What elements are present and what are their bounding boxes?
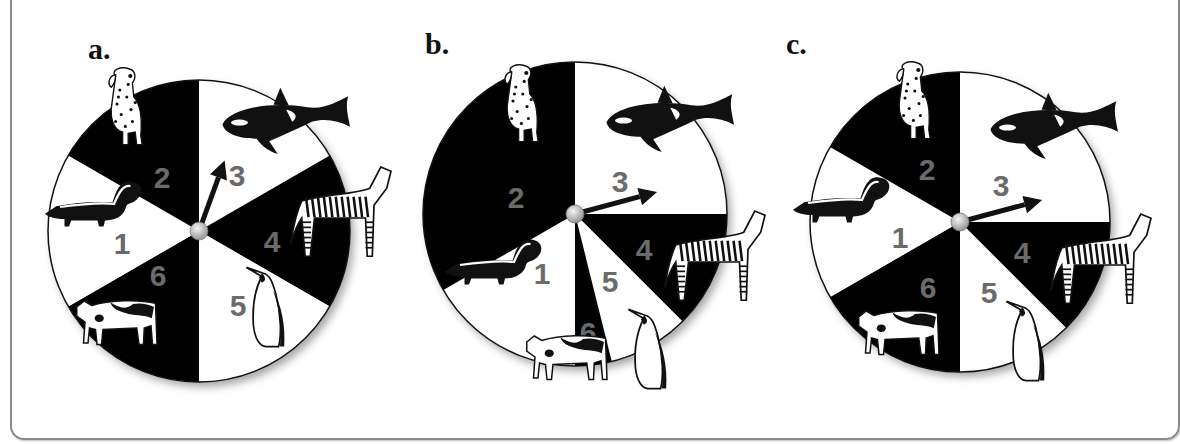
sector-number-1: 1	[892, 221, 909, 254]
sector-number-3: 3	[993, 169, 1010, 202]
sector-number-5: 5	[981, 276, 998, 309]
sector-number-4: 4	[1014, 236, 1031, 269]
spinner-hub	[951, 213, 969, 231]
sector-number-6: 6	[920, 271, 937, 304]
sector-number-2: 2	[919, 153, 936, 186]
